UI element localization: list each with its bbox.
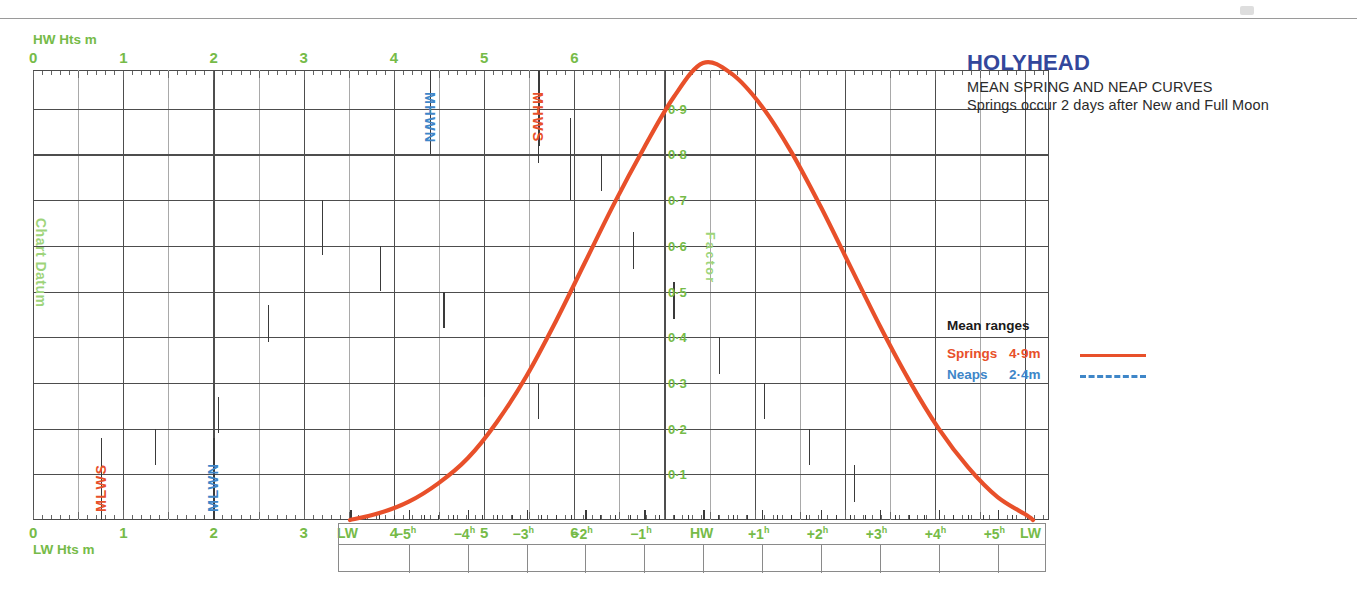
grid-whisker-16	[764, 383, 765, 420]
axis-tick	[520, 515, 521, 519]
grid-line-horizontal-factor-0.5	[33, 292, 1048, 293]
axis-tick	[313, 71, 314, 75]
time-tick	[762, 510, 764, 520]
axis-tick	[845, 71, 846, 80]
axis-tick	[520, 71, 521, 75]
time-tick	[747, 515, 748, 520]
axis-tick	[195, 515, 196, 519]
grid-line-vertical-ext-21	[980, 70, 981, 520]
axis-tick	[475, 71, 476, 75]
legend-value-springs: 4·9m	[1009, 346, 1041, 361]
page-header-rule	[0, 18, 1357, 19]
axis-tick	[60, 515, 61, 519]
axis-tick	[304, 510, 305, 519]
axis-tick	[1007, 515, 1008, 519]
legend-value-neaps: 2·4m	[1009, 367, 1041, 382]
axis-tick	[60, 71, 61, 75]
axis-tick	[159, 71, 160, 75]
axis-tick	[989, 515, 990, 519]
chart-datum-label: Chart Datum	[34, 218, 48, 308]
axis-tick	[268, 71, 269, 75]
bottom-axis-caption: LW Hts m	[33, 543, 95, 557]
top-axis-tick-label-1: 1	[119, 50, 127, 65]
chart-title-block: HOLYHEAD MEAN SPRING AND NEAP CURVES Spr…	[967, 50, 1269, 113]
time-tick	[1027, 515, 1028, 520]
axis-tick	[222, 515, 223, 519]
grid-line-horizontal-factor-0.3	[33, 383, 1048, 384]
axis-tick	[710, 512, 711, 519]
axis-tick	[962, 71, 963, 75]
axis-tick	[556, 71, 557, 75]
bottom-axis-tick-label-3: 3	[300, 525, 308, 540]
grid-whisker-3	[601, 154, 602, 191]
axis-tick	[574, 510, 575, 519]
axis-tick	[890, 512, 891, 519]
grid-line-vertical-ext-20	[935, 70, 936, 520]
time-tick	[703, 510, 705, 520]
axis-tick	[1025, 510, 1026, 519]
axis-tick	[574, 71, 575, 80]
time-tick	[468, 510, 470, 520]
axis-tick	[863, 515, 864, 519]
grid-line-vertical-0.5	[78, 70, 79, 520]
time-tick	[585, 510, 587, 520]
axis-tick	[601, 71, 602, 75]
time-tick	[512, 515, 513, 520]
axis-tick	[412, 71, 413, 75]
axis-tick	[186, 515, 187, 519]
bottom-axis-tick-label-1: 1	[119, 525, 127, 540]
time-tick	[983, 515, 984, 520]
axis-tick	[304, 71, 305, 80]
axis-tick	[286, 515, 287, 519]
grid-line-vertical-2.5	[259, 70, 260, 520]
bottom-axis-tick-label-0: 0	[29, 525, 37, 540]
axis-tick	[231, 515, 232, 519]
axis-tick	[69, 515, 70, 519]
axis-tick	[809, 515, 810, 519]
axis-tick	[430, 515, 431, 519]
axis-tick	[412, 515, 413, 519]
time-tick	[482, 515, 483, 520]
axis-tick	[773, 515, 774, 519]
axis-tick	[439, 71, 440, 78]
axis-tick	[204, 71, 205, 75]
top-axis-tick-label-3: 3	[300, 50, 308, 65]
chart-note: Springs occur 2 days after New and Full …	[967, 97, 1269, 113]
grid-line-vertical-ext-17	[800, 70, 801, 520]
axis-tick	[241, 71, 242, 75]
legend-heading: Mean ranges	[947, 318, 1030, 333]
grid-whisker-11	[155, 429, 156, 466]
level-label-MHWS: MHWS	[531, 92, 546, 143]
grid-line-vertical-3	[304, 70, 305, 520]
axis-tick	[646, 515, 647, 519]
time-entry-cell-11[interactable]	[339, 545, 999, 573]
axis-tick	[917, 515, 918, 519]
axis-tick	[277, 515, 278, 519]
axis-tick	[908, 71, 909, 75]
axis-tick	[331, 71, 332, 75]
grid-line-vertical-1.5	[168, 70, 169, 520]
axis-tick	[358, 71, 359, 75]
axis-tick	[331, 515, 332, 519]
axis-tick	[295, 515, 296, 519]
grid-whisker-10	[218, 397, 219, 434]
time-tick	[1012, 515, 1013, 520]
factor-tick-label-0·1: 0·1	[668, 468, 687, 481]
grid-line-right-edge	[1048, 70, 1049, 520]
time-tick	[615, 515, 616, 520]
axis-tick	[962, 515, 963, 519]
axis-tick	[42, 71, 43, 75]
axis-tick	[168, 71, 169, 78]
axis-tick	[51, 71, 52, 75]
axis-tick	[448, 515, 449, 519]
factor-tick-label-0·3: 0·3	[668, 377, 687, 390]
axis-tick	[737, 71, 738, 75]
axis-tick	[123, 510, 124, 519]
grid-line-vertical-ext-13	[619, 70, 620, 520]
time-tick	[409, 510, 411, 520]
time-tick	[556, 515, 557, 520]
time-tick	[968, 515, 969, 520]
top-axis-tick-label-2: 2	[209, 50, 217, 65]
axis-tick	[800, 512, 801, 519]
axis-tick	[493, 515, 494, 519]
